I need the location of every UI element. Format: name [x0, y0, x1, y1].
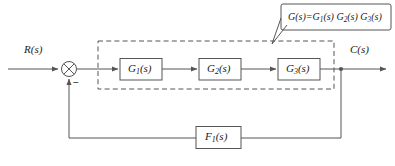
summing-junction-symbol — [62, 62, 77, 77]
callout-equation-label: G(s)=G1(s) G2(s) G3(s) — [288, 12, 382, 24]
block-g1-label: G1(s) — [128, 63, 152, 76]
block-diagram-canvas: R(s) C(s) − G1(s) G2(s) G3(s) F1(s) G(s)… — [0, 0, 395, 166]
input-signal-label: R(s) — [24, 44, 42, 55]
block-g2-label: G2(s) — [207, 63, 231, 76]
diagram-vector-layer — [0, 0, 395, 166]
callout-box-shape — [272, 4, 391, 44]
block-f1-label: F1(s) — [205, 131, 227, 144]
block-g3-label: G3(s) — [286, 63, 310, 76]
feedback-path-left — [69, 79, 196, 138]
summing-junction-negative-sign: − — [73, 78, 79, 88]
output-signal-label: C(s) — [350, 44, 369, 55]
